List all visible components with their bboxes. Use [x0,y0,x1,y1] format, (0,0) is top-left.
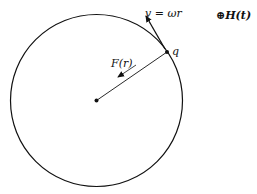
orbit-diagram [0,0,257,194]
center-point [95,99,99,103]
magnetic-field-label: ⊕H(t) [216,10,251,21]
charge-point [165,50,169,54]
velocity-label: v = ωr [145,8,182,19]
force-label: F(r) [111,58,132,69]
charge-label: q [172,46,179,57]
